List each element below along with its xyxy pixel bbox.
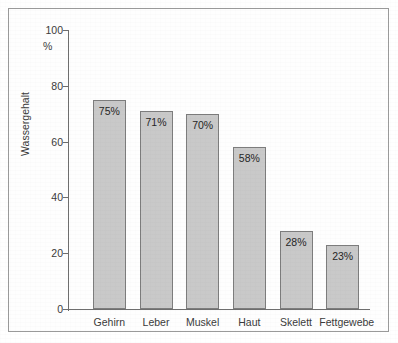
bar-value-label: 75% (94, 106, 125, 117)
x-axis-line (68, 309, 370, 310)
x-axis-label-leber: Leber (133, 316, 180, 328)
bar-leber: 71% (140, 111, 173, 309)
bar-gehirn: 75% (93, 100, 126, 309)
x-axis-label-fettgewebe: Fettgewebe (319, 316, 366, 328)
y-axis-tick-labels: 100806040200 (30, 28, 63, 311)
y-axis-tick (63, 142, 68, 143)
bar-value-label: 28% (281, 237, 312, 248)
y-axis-tick-label: 100 (45, 25, 63, 35)
bar-value-label: 23% (327, 251, 358, 262)
x-axis-label-haut: Haut (226, 316, 273, 328)
bar-value-label: 71% (141, 117, 172, 128)
y-axis-tick-label: 60 (51, 137, 63, 147)
x-axis-label-gehirn: Gehirn (86, 316, 133, 328)
y-axis-tick (63, 30, 68, 31)
y-axis-tick (63, 253, 68, 254)
x-axis-label-muskel: Muskel (179, 316, 226, 328)
bar-value-label: 70% (187, 120, 218, 131)
bar-fettgewebe: 23% (326, 245, 359, 309)
y-axis-tick-label: 20 (51, 248, 63, 258)
y-axis-tick-label: 40 (51, 192, 63, 202)
chart-figure: % Wassergehalt 100806040200 75%71%70%58%… (0, 0, 398, 343)
bar-skelett: 28% (280, 231, 313, 309)
bar-value-label: 58% (234, 153, 265, 164)
plot-area: 75%71%70%58%28%23% GehirnLeberMuskelHaut… (68, 28, 370, 311)
bar-muskel: 70% (186, 114, 219, 309)
y-axis-tick-label: 80 (51, 81, 63, 91)
y-axis-tick (63, 86, 68, 87)
bar-haut: 58% (233, 147, 266, 309)
y-axis-tick (63, 197, 68, 198)
y-axis-line (68, 30, 69, 311)
y-axis-tick (63, 309, 68, 310)
x-axis-label-skelett: Skelett (273, 316, 320, 328)
